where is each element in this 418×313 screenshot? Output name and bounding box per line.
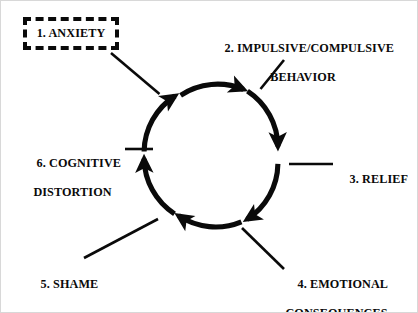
node-relief[interactable]: 3. RELIEF (337, 157, 408, 201)
diagram-canvas: 1. ANXIETY 2. IMPULSIVE/COMPULSIVE BEHAV… (0, 0, 418, 313)
node-shame[interactable]: 5. SHAME (28, 262, 98, 306)
node-behavior[interactable]: 2. IMPULSIVE/COMPULSIVE BEHAVIOR (210, 26, 396, 113)
node-behavior-label-line2: BEHAVIOR (210, 70, 396, 85)
cycle-arrow-to-shame (179, 216, 242, 227)
node-consequences[interactable]: 4. EMOTIONAL CONSEQUENCES (259, 262, 414, 313)
node-anxiety-label: 1. ANXIETY (37, 26, 106, 41)
cycle-arrow-to-consequences (247, 164, 278, 220)
leader-line-anxiety (111, 53, 160, 94)
cycle-arrow-to-distortion (144, 159, 174, 214)
node-behavior-label-line1: 2. IMPULSIVE/COMPULSIVE (225, 41, 395, 55)
node-consequences-label-line2: CONSEQUENCES (259, 306, 414, 313)
node-consequences-label-line1: 4. EMOTIONAL (298, 277, 389, 291)
node-anxiety[interactable]: 1. ANXIETY (23, 17, 119, 50)
node-relief-label: 3. RELIEF (350, 172, 408, 186)
node-distortion-label-line1: 6. COGNITIVE (37, 156, 122, 170)
node-distortion-label-line2: DISTORTION (15, 185, 130, 200)
node-distortion[interactable]: 6. COGNITIVE DISTORTION (15, 141, 130, 228)
cycle-arrow-to-anxiety (144, 96, 175, 152)
node-shame-label: 5. SHAME (41, 277, 99, 291)
